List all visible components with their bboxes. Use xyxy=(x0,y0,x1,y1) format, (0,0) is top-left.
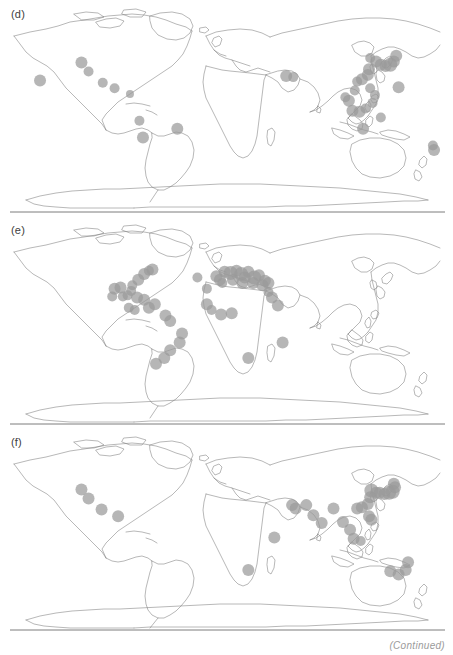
panel-label-d: (d) xyxy=(11,8,25,20)
occurrence-dot xyxy=(268,532,280,544)
occurrence-dot xyxy=(227,274,239,286)
occurrence-dot xyxy=(226,307,238,319)
occurrence-dot xyxy=(370,90,380,100)
occurrence-dot xyxy=(316,517,328,529)
occurrence-dot xyxy=(137,132,149,144)
map-stage-e xyxy=(0,218,453,430)
figure-world-map-distributions: (d) xyxy=(0,0,453,655)
occurrence-dot xyxy=(290,502,302,514)
occurrence-dot xyxy=(428,144,440,156)
occurrence-dot xyxy=(124,303,134,313)
occurrence-dots-d xyxy=(0,0,453,218)
occurrence-dot xyxy=(202,284,212,294)
occurrence-dot xyxy=(107,291,117,301)
occurrence-dot xyxy=(393,81,405,93)
occurrence-dots-e xyxy=(0,218,453,430)
occurrence-dot xyxy=(242,564,254,576)
map-panel-e: (e) xyxy=(0,218,453,430)
panel-label-e: (e) xyxy=(11,224,25,236)
occurrence-dot xyxy=(272,299,284,311)
occurrence-dot xyxy=(96,504,108,516)
occurrence-dot xyxy=(277,336,289,348)
map-panel-d: (d) xyxy=(0,0,453,218)
occurrence-dot xyxy=(356,536,366,546)
occurrence-dot xyxy=(75,57,87,69)
occurrence-dots-f xyxy=(0,430,453,635)
figure-caption: (Continued) xyxy=(389,640,445,651)
occurrence-dot xyxy=(98,78,108,88)
occurrence-dot xyxy=(300,499,312,511)
occurrence-dot xyxy=(288,72,298,82)
occurrence-dot xyxy=(388,478,400,490)
occurrence-dot xyxy=(340,92,350,102)
occurrence-dot xyxy=(150,358,162,370)
occurrence-dot xyxy=(215,308,227,320)
occurrence-dot xyxy=(34,74,46,86)
occurrence-dot xyxy=(357,123,369,135)
occurrence-dot xyxy=(126,90,134,98)
occurrence-dot xyxy=(207,305,217,315)
occurrence-dot xyxy=(84,67,94,77)
occurrence-dot xyxy=(376,112,386,122)
map-stage-f xyxy=(0,430,453,635)
occurrence-dot xyxy=(352,77,362,87)
map-panel-f: (f) xyxy=(0,430,453,635)
occurrence-dot xyxy=(390,50,402,62)
occurrence-dot xyxy=(134,116,144,126)
occurrence-dot xyxy=(149,298,161,310)
occurrence-dot xyxy=(171,123,183,135)
panel-label-f: (f) xyxy=(11,436,22,448)
occurrence-dot xyxy=(192,272,202,282)
occurrence-dot xyxy=(242,352,254,364)
occurrence-dot xyxy=(384,565,396,577)
occurrence-dot xyxy=(164,315,176,327)
occurrence-dot xyxy=(110,83,120,93)
occurrence-dot xyxy=(174,336,186,348)
occurrence-dot xyxy=(112,510,124,522)
occurrence-dot xyxy=(350,86,360,96)
occurrence-dot xyxy=(328,502,340,514)
occurrence-dot xyxy=(217,278,227,288)
occurrence-dot xyxy=(123,290,133,300)
occurrence-dot xyxy=(247,277,259,289)
occurrence-dot xyxy=(83,492,95,504)
map-stage-d xyxy=(0,0,453,218)
occurrence-dot xyxy=(365,514,377,526)
